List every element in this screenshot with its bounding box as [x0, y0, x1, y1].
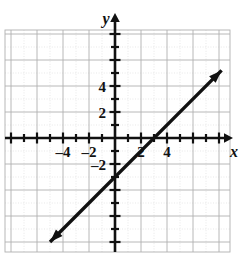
- y-tick-label: 2: [99, 105, 107, 121]
- y-tick-label: –2: [90, 157, 106, 173]
- x-tick-label: 4: [163, 144, 171, 160]
- y-axis-label: y: [100, 10, 110, 28]
- y-tick-label: 4: [99, 79, 107, 95]
- figure-background: [0, 0, 250, 255]
- x-axis-label: x: [229, 143, 238, 160]
- x-tick-label: –4: [55, 144, 72, 160]
- x-tick-label: 2: [137, 144, 145, 160]
- coordinate-plane-figure: –4–224 42–2 x y: [0, 0, 250, 255]
